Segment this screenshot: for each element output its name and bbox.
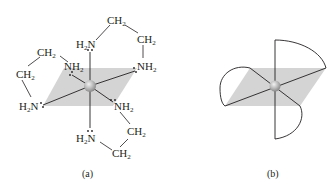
label-bottom-h2n: H2N — [76, 132, 95, 146]
label-upper-left-nh2: NH2 — [64, 60, 84, 74]
panel-b: (b) — [220, 40, 326, 180]
label-top-ch2-a: CH2 — [107, 14, 126, 28]
label-left-ch2-bottom: CH2 — [16, 68, 35, 82]
label-top-ch2-b: CH2 — [137, 33, 156, 47]
label-left-h2n: H2N — [19, 100, 38, 114]
figure-canvas: H2N CH2 CH2 NH2 NH2 CH2 CH2 H2N NH2 H2N … — [0, 0, 327, 192]
label-bottom-ch2-right: CH2 — [127, 125, 146, 139]
caption-a: (a) — [82, 168, 93, 180]
panel-a: H2N CH2 CH2 NH2 NH2 CH2 CH2 H2N NH2 H2N … — [16, 14, 157, 180]
label-top-h2n: H2N — [76, 38, 95, 52]
metal-atom-b — [270, 81, 281, 92]
label-left-ch2-top: CH2 — [37, 46, 56, 60]
caption-b: (b) — [267, 168, 279, 180]
label-bottom-ch2-bottom: CH2 — [112, 147, 131, 161]
label-lower-right-nh2: NH2 — [114, 100, 134, 114]
label-upper-right-nh2: NH2 — [137, 60, 157, 74]
metal-atom — [84, 80, 96, 92]
